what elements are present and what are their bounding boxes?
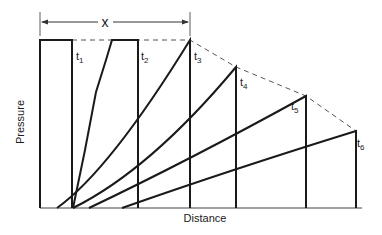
pulse-t5 (89, 96, 306, 208)
time-label-t3: t3 (194, 50, 202, 65)
time-label-t6: t6 (357, 137, 365, 152)
pulse-t2 (73, 40, 138, 208)
span-label: x (102, 14, 109, 30)
span-dimension: x (40, 12, 190, 36)
y-axis-label: Pressure (14, 100, 26, 144)
pulse-t1 (40, 40, 72, 208)
time-label-t1: t1 (76, 50, 84, 65)
pressure-distance-diagram: x t1 t2 t3 t4 t5 t6 Distance Pressure (0, 0, 382, 235)
time-label-t4: t4 (240, 76, 248, 91)
pulse-t6 (122, 131, 356, 208)
x-axis-label: Distance (184, 212, 227, 224)
pulse-t3 (57, 40, 190, 208)
time-label-t2: t2 (141, 50, 149, 65)
peak-envelope-dashed (72, 40, 356, 131)
